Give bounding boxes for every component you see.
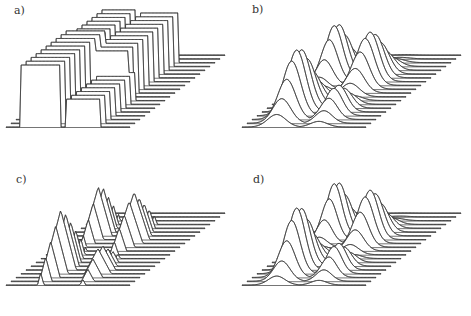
surface-plot-b: [236, 0, 471, 158]
surface-row-mask: [6, 274, 130, 286]
panel-d: d): [236, 158, 471, 316]
panel-label-b: b): [252, 3, 263, 16]
surface-plot-c: [0, 158, 235, 316]
panel-label-c: c): [16, 173, 26, 186]
panel-b: b): [236, 0, 471, 158]
panel-label-a: a): [14, 4, 25, 17]
panel-a: a): [0, 0, 235, 158]
surface-plot-d: [236, 158, 471, 316]
surface-plot-a: [0, 0, 235, 158]
surface-row-line: [6, 274, 130, 285]
panel-c: c): [0, 158, 235, 316]
panel-label-d: d): [253, 173, 264, 186]
